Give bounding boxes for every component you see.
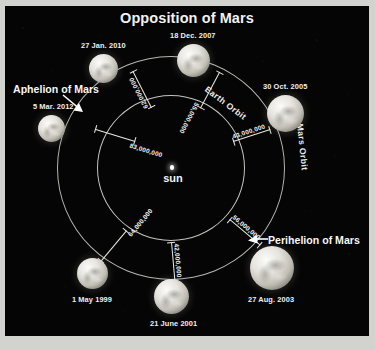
page-title: Opposition of Mars bbox=[5, 10, 369, 26]
date-label-1999: 1 May 1999 bbox=[72, 295, 112, 304]
date-label-2007: 18 Dec. 2007 bbox=[170, 31, 216, 40]
mars-2003 bbox=[250, 246, 294, 290]
date-label-2010: 27 Jan. 2010 bbox=[81, 41, 126, 50]
mars-2010 bbox=[89, 54, 118, 83]
mars-2005 bbox=[267, 95, 304, 132]
figure-canvas: Opposition of Mars Earth Orbit Mars Orbi… bbox=[0, 0, 375, 350]
mars-1999 bbox=[77, 258, 108, 289]
sun-marker bbox=[170, 165, 175, 170]
mars-2012 bbox=[38, 115, 65, 142]
sun-label: sun bbox=[153, 172, 193, 184]
diagram-panel: Opposition of Mars Earth Orbit Mars Orbi… bbox=[5, 6, 369, 336]
date-label-2003: 27 Aug. 2003 bbox=[248, 295, 294, 304]
mars-2007 bbox=[177, 44, 210, 77]
date-label-2005: 30 Oct. 2005 bbox=[263, 82, 307, 91]
perihelion-callout-label: Perihelion of Mars bbox=[268, 234, 360, 246]
mars-2001 bbox=[154, 279, 189, 314]
perihelion-arrow-icon bbox=[246, 232, 270, 246]
aphelion-arrow-icon bbox=[61, 93, 87, 115]
date-label-2001: 21 June 2001 bbox=[150, 319, 197, 328]
